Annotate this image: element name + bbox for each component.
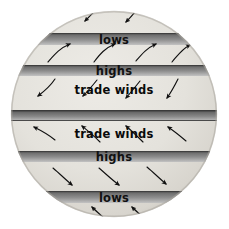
band-equator bbox=[0, 110, 229, 121]
band-label-highs-south: highs bbox=[96, 150, 132, 164]
label-trade-winds-north: trade winds bbox=[75, 83, 154, 97]
band-label-highs-north: highs bbox=[96, 64, 132, 78]
band-rule bbox=[0, 120, 229, 121]
band-rule bbox=[0, 110, 229, 111]
label-trade-winds-south: trade winds bbox=[75, 127, 154, 141]
band-label-lows-south: lows bbox=[99, 191, 129, 205]
globe-diagram-canvas: lows highs trade winds trade winds highs… bbox=[0, 0, 229, 229]
band-label-lows-north: lows bbox=[99, 33, 129, 47]
wind-belt-globe-figure: lows highs trade winds trade winds highs… bbox=[0, 0, 229, 229]
